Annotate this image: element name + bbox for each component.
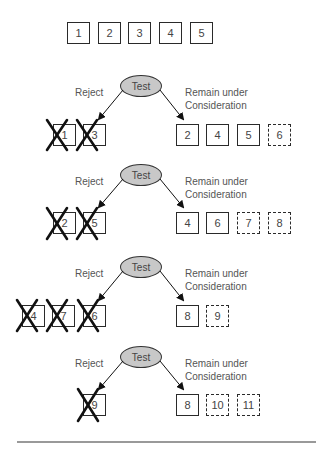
item-box: 2 bbox=[98, 22, 121, 44]
reject-label: Reject bbox=[75, 86, 103, 100]
remain-arrow-icon bbox=[160, 271, 183, 300]
bottom-rule bbox=[17, 441, 316, 443]
rejected-box: 9 bbox=[83, 394, 106, 416]
new-candidate-box: 7 bbox=[237, 212, 260, 234]
rejected-box: 3 bbox=[83, 124, 106, 146]
test-node: Test bbox=[120, 346, 162, 368]
new-candidate-box: 11 bbox=[237, 394, 260, 416]
remain-arrow-icon bbox=[160, 179, 183, 207]
rejected-box: 4 bbox=[22, 305, 45, 327]
rejected-box: 6 bbox=[83, 305, 106, 327]
remain-label-line2: Consideration bbox=[185, 370, 247, 384]
item-box: 3 bbox=[128, 22, 151, 44]
remaining-box: 8 bbox=[176, 394, 199, 416]
remain-arrow-icon bbox=[160, 90, 183, 119]
rejected-box: 7 bbox=[52, 305, 75, 327]
remain-label-line1: Remain under bbox=[185, 86, 248, 100]
item-box: 4 bbox=[159, 22, 182, 44]
remain-label-line2: Consideration bbox=[185, 99, 247, 113]
test-node: Test bbox=[120, 256, 162, 278]
test-node: Test bbox=[120, 164, 162, 186]
remaining-box: 4 bbox=[206, 124, 229, 146]
remain-label-line2: Consideration bbox=[185, 188, 247, 202]
reject-label: Reject bbox=[75, 357, 103, 371]
remaining-box: 8 bbox=[176, 305, 199, 327]
test-node: Test bbox=[120, 75, 162, 97]
remaining-box: 4 bbox=[176, 212, 199, 234]
remain-arrow-icon bbox=[160, 361, 183, 389]
remain-label-line2: Consideration bbox=[185, 280, 247, 294]
remaining-box: 5 bbox=[237, 124, 260, 146]
remaining-box: 2 bbox=[176, 124, 199, 146]
reject-label: Reject bbox=[75, 267, 103, 281]
new-candidate-box: 6 bbox=[268, 124, 291, 146]
remain-label-line1: Remain under bbox=[185, 175, 248, 189]
new-candidate-box: 10 bbox=[206, 394, 229, 416]
remaining-box: 6 bbox=[206, 212, 229, 234]
rejected-box: 5 bbox=[83, 212, 106, 234]
new-candidate-box: 8 bbox=[268, 212, 291, 234]
new-candidate-box: 9 bbox=[206, 305, 229, 327]
reject-label: Reject bbox=[75, 175, 103, 189]
remain-label-line1: Remain under bbox=[185, 267, 248, 281]
rejected-box: 1 bbox=[53, 124, 76, 146]
rejected-box: 2 bbox=[53, 212, 76, 234]
remain-label-line1: Remain under bbox=[185, 357, 248, 371]
item-box: 5 bbox=[190, 22, 213, 44]
item-box: 1 bbox=[67, 22, 90, 44]
